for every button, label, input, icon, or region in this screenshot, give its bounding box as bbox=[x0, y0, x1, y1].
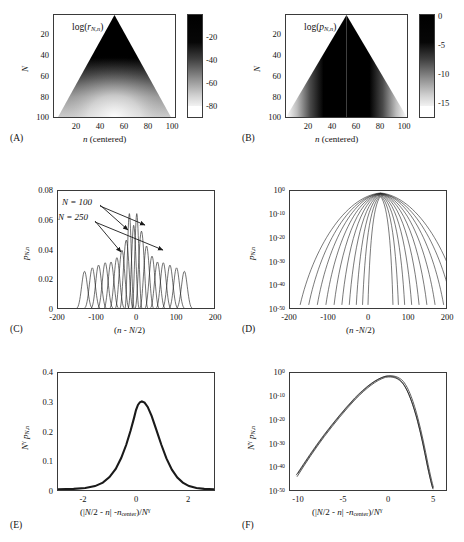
panel-A-xtick: 100 bbox=[166, 121, 179, 131]
panel-D-ytick: 10-40 bbox=[248, 280, 285, 290]
panel-E-ytick: 0 bbox=[24, 486, 53, 496]
panel-B-inner-label: log(pN,n) bbox=[304, 22, 336, 32]
panel-A-xtick: 60 bbox=[120, 121, 129, 131]
panel-B-xtick: 60 bbox=[352, 121, 361, 131]
panel-A-letter: (A) bbox=[10, 133, 23, 143]
panel-F-xtick: -10 bbox=[292, 494, 303, 504]
panel-B-colorbar-gradient bbox=[420, 15, 434, 106]
panel-C-xtick: -200 bbox=[49, 312, 65, 322]
panel-D: 100 10-10 10-20 10-30 10-40 10-50 -200 -… bbox=[232, 180, 464, 362]
panel-A-xtick: 20 bbox=[72, 121, 81, 131]
panel-F-curve bbox=[290, 373, 446, 490]
panel-C-ytick: 0.08 bbox=[22, 185, 53, 195]
panel-C-xtick: 100 bbox=[170, 312, 183, 322]
panel-B-ylabel: N bbox=[252, 66, 262, 72]
panel-C-ytick: 0.02 bbox=[22, 274, 53, 284]
panel-B-colorbar-tick: -10 bbox=[438, 69, 462, 79]
panel-C-xtick: 0 bbox=[134, 312, 138, 322]
panel-A-xtick: 40 bbox=[96, 121, 105, 131]
panel-B-ytick: 60 bbox=[261, 71, 281, 81]
panel-A-ylabel: N bbox=[20, 66, 30, 72]
panel-E-plot bbox=[57, 372, 215, 491]
panel-B-ytick: 20 bbox=[261, 29, 281, 39]
panel-D-letter: (D) bbox=[242, 324, 255, 334]
panel-A-colorbar-tick: -60 bbox=[206, 78, 230, 88]
panel-D-ylabel: pN,n bbox=[246, 247, 256, 260]
panel-E-xtick: 2 bbox=[186, 494, 190, 504]
panel-D-xtick: -200 bbox=[281, 312, 297, 322]
panel-F-letter: (F) bbox=[242, 520, 254, 530]
panel-E-curve bbox=[58, 373, 214, 490]
panel-F-xlabel: (|N/2 - n| -ncenter)/Nγ bbox=[312, 507, 383, 517]
panel-A-xlabel: n (centered) bbox=[83, 134, 126, 144]
panel-A-xtick: 80 bbox=[144, 121, 153, 131]
panel-B-xtick: 100 bbox=[398, 121, 411, 131]
panel-F-ytick: 10-50 bbox=[248, 486, 285, 496]
panel-C-annotation-n100: N = 100 bbox=[62, 197, 92, 207]
panel-F-plot bbox=[289, 372, 447, 491]
panel-D-ytick: 100 bbox=[252, 185, 285, 195]
panel-E-letter: (E) bbox=[10, 520, 22, 530]
panel-D-xtick: 200 bbox=[441, 312, 454, 322]
panel-F-ytick: 10-20 bbox=[248, 415, 285, 425]
panel-D-xtick: 100 bbox=[402, 312, 415, 322]
panel-F-xtick: -5 bbox=[339, 494, 346, 504]
panel-A-inner-label: log(rN,n) bbox=[72, 22, 103, 32]
panel-B-xlabel: n (centered) bbox=[315, 134, 358, 144]
panel-A: log(rN,n) 20 40 60 80 100 20 40 60 80 10… bbox=[0, 0, 232, 180]
panel-F-xtick: 5 bbox=[431, 494, 435, 504]
panel-E: 0.4 0.3 0.2 0.1 0 -2 0 2 Nγ pN,n (|N/2 -… bbox=[0, 362, 232, 542]
panel-A-colorbar-tick: -40 bbox=[206, 55, 230, 65]
panel-C-ytick: 0.06 bbox=[22, 215, 53, 225]
panel-A-colorbar-gradient bbox=[188, 15, 202, 106]
panel-D-curves bbox=[290, 191, 446, 308]
panel-D-ytick: 10-50 bbox=[248, 304, 285, 314]
panel-D-xtick: -100 bbox=[320, 312, 336, 322]
panel-A-colorbar-tick: -20 bbox=[206, 32, 230, 42]
panel-B-ytick: 40 bbox=[261, 50, 281, 60]
panel-F-ylabel: Nγ pN,n bbox=[246, 426, 256, 450]
panel-B-colorbar bbox=[419, 14, 435, 118]
panel-B-letter: (B) bbox=[242, 133, 255, 143]
panel-C: 0.08 0.06 0.04 0.02 0 -200 -100 0 100 20… bbox=[0, 180, 232, 362]
panel-B-colorbar-tick: 0 bbox=[438, 11, 462, 21]
panel-C-xlabel: (n - N/2) bbox=[114, 325, 145, 335]
panel-D-xlabel: (n -N/2) bbox=[346, 325, 375, 335]
panel-A-colorbar bbox=[187, 14, 203, 118]
panel-B-xtick: 20 bbox=[304, 121, 313, 131]
panel-D-xtick: 0 bbox=[366, 312, 370, 322]
panel-D-ytick: 10-20 bbox=[248, 233, 285, 243]
panel-A-colorbar-tick: -80 bbox=[206, 101, 230, 111]
panel-E-ytick: 0.4 bbox=[24, 367, 53, 377]
panel-B-colorbar-tick: -5 bbox=[438, 40, 462, 50]
panel-B-ytick: 100 bbox=[254, 112, 281, 122]
panel-B: log(pN,n) 20 40 60 80 100 20 40 60 80 10… bbox=[232, 0, 464, 180]
panel-B-ytick: 80 bbox=[261, 92, 281, 102]
panel-F-ytick: 100 bbox=[252, 367, 285, 377]
panel-B-colorbar-tick: -15 bbox=[438, 98, 462, 108]
panel-E-ytick: 0.1 bbox=[24, 456, 53, 466]
panel-C-letter: (C) bbox=[10, 324, 23, 334]
panel-F-ytick: 10-40 bbox=[248, 462, 285, 472]
panel-F: 100 10-10 10-20 10-30 10-40 10-50 -10 -5… bbox=[232, 362, 464, 542]
panel-F-xtick: 0 bbox=[386, 494, 390, 504]
panel-C-xtick: -100 bbox=[88, 312, 104, 322]
panel-A-ytick: 40 bbox=[29, 50, 49, 60]
panel-E-xlabel: (|N/2 - n| -ncenter)/Nγ bbox=[80, 507, 151, 517]
panel-A-ytick: 80 bbox=[29, 92, 49, 102]
panel-C-xtick: 200 bbox=[209, 312, 222, 322]
panel-C-plot bbox=[57, 190, 215, 309]
panel-C-annotation-n250: N = 250 bbox=[58, 212, 88, 222]
panel-C-ylabel: pN,n bbox=[20, 247, 30, 260]
panel-B-xtick: 80 bbox=[376, 121, 385, 131]
panel-D-plot bbox=[289, 190, 447, 309]
panel-B-xtick: 40 bbox=[328, 121, 337, 131]
panel-E-xtick: 0 bbox=[134, 494, 138, 504]
panel-D-ytick: 10-10 bbox=[248, 209, 285, 219]
panel-A-ytick: 100 bbox=[22, 112, 49, 122]
panel-E-ytick: 0.3 bbox=[24, 397, 53, 407]
panel-F-ytick: 10-10 bbox=[248, 391, 285, 401]
panel-E-xtick: -2 bbox=[79, 494, 86, 504]
panel-A-ytick: 60 bbox=[29, 71, 49, 81]
panel-C-curves bbox=[58, 191, 214, 308]
